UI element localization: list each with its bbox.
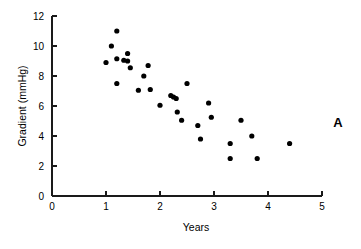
data-point — [238, 118, 243, 123]
data-point — [125, 58, 130, 63]
data-point — [255, 156, 260, 161]
data-point — [184, 81, 189, 86]
data-point — [128, 65, 133, 70]
y-tick-label: 2 — [38, 161, 44, 172]
data-points — [103, 28, 292, 161]
data-point — [109, 43, 114, 48]
plot-canvas: 012345024681012 Years Gradient (mmHg) A — [0, 0, 361, 249]
data-point — [209, 115, 214, 120]
x-tick-label: 5 — [319, 201, 325, 212]
y-tick-label: 8 — [38, 71, 44, 82]
y-tick-label: 12 — [33, 11, 45, 22]
y-tick-label: 6 — [38, 101, 44, 112]
data-point — [195, 123, 200, 128]
y-tick-label: 4 — [38, 131, 44, 142]
data-point — [136, 88, 141, 93]
data-point — [114, 28, 119, 33]
data-point — [146, 63, 151, 68]
data-point — [125, 51, 130, 56]
x-axis-title: Years — [183, 221, 209, 233]
data-point — [228, 156, 233, 161]
data-point — [175, 109, 180, 114]
x-tick-label: 0 — [49, 201, 55, 212]
y-tick-label: 0 — [38, 191, 44, 202]
x-tick-label: 1 — [103, 201, 109, 212]
data-point — [157, 103, 162, 108]
data-point — [206, 100, 211, 105]
data-point — [287, 141, 292, 146]
data-point — [103, 60, 108, 65]
y-axis-title: Gradient (mmHg) — [16, 65, 28, 146]
y-tick-label: 10 — [33, 41, 45, 52]
x-tick-label: 2 — [157, 201, 163, 212]
data-point — [141, 73, 146, 78]
tick-marks — [52, 16, 322, 196]
data-point — [228, 141, 233, 146]
data-point — [249, 133, 254, 138]
axes — [52, 16, 322, 196]
data-point — [179, 118, 184, 123]
x-tick-label: 4 — [265, 201, 271, 212]
data-point — [114, 81, 119, 86]
data-point — [148, 87, 153, 92]
data-point — [198, 136, 203, 141]
panel-label-a: A — [333, 115, 343, 130]
x-tick-label: 3 — [211, 201, 217, 212]
scatter-plot-figure: 012345024681012 Years Gradient (mmHg) A — [0, 0, 361, 249]
data-point — [174, 96, 179, 101]
data-point — [114, 56, 119, 61]
